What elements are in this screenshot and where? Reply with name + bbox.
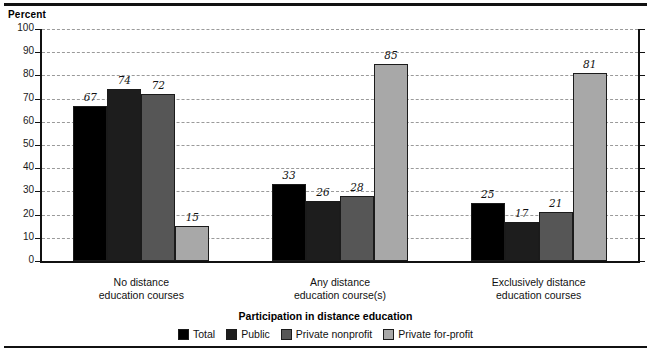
bar: [539, 212, 573, 261]
bar-value-label: 67: [70, 91, 110, 103]
bar-value-label: 28: [337, 181, 377, 193]
y-axis-tick-label: 10: [6, 231, 34, 242]
y-axis-tick-right: [640, 29, 645, 30]
y-axis-tick-label: 90: [6, 45, 34, 56]
y-axis-tick-label: 0: [6, 254, 34, 265]
y-axis-tick-right: [640, 145, 645, 146]
x-axis-tick-label: Exclusively distanceeducation courses: [444, 276, 634, 301]
y-axis-tick: [35, 145, 40, 146]
x-axis-tick-label: No distanceeducation courses: [46, 276, 236, 301]
y-axis-tick: [35, 168, 40, 169]
legend-swatch: [281, 329, 292, 340]
legend-swatch: [383, 329, 394, 340]
y-axis-tick-right: [640, 122, 645, 123]
legend-label: Private nonprofit: [296, 328, 372, 340]
y-axis-tick: [35, 191, 40, 192]
bar: [175, 226, 209, 261]
y-axis-tick: [35, 215, 40, 216]
y-axis-tick-label: 100: [6, 22, 34, 33]
y-axis-title: Percent: [8, 9, 46, 20]
legend-item: Total: [178, 328, 215, 340]
y-axis-tick-right: [640, 99, 645, 100]
y-axis-tick-right: [640, 75, 645, 76]
bar-value-label: 85: [371, 49, 411, 61]
x-axis-tick-label: Any distanceeducation course(s): [245, 276, 435, 301]
bar-value-label: 72: [138, 79, 178, 91]
bar-group: 67747215: [42, 29, 241, 261]
legend-label: Public: [241, 328, 270, 340]
bar: [573, 73, 607, 261]
chart-legend: TotalPublicPrivate nonprofitPrivate for-…: [0, 328, 651, 340]
bar: [340, 196, 374, 261]
bottom-axis-line: [40, 261, 640, 263]
y-axis-tick-label: 20: [6, 208, 34, 219]
x-axis-tick-label-line: Exclusively distance: [444, 276, 634, 289]
bar: [471, 203, 505, 261]
y-axis-tick-label: 50: [6, 138, 34, 149]
x-axis-tick-label-line: No distance: [46, 276, 236, 289]
bar: [272, 184, 306, 261]
y-axis-tick: [35, 52, 40, 53]
bar-group: 33262885: [241, 29, 440, 261]
bar: [306, 201, 340, 261]
bar: [374, 64, 408, 261]
bar: [107, 89, 141, 261]
x-axis-tick-label-line: education courses: [444, 289, 634, 302]
y-axis-tick: [35, 261, 40, 262]
legend-label: Private for-profit: [398, 328, 473, 340]
bar: [141, 94, 175, 261]
bar-value-label: 81: [570, 58, 610, 70]
y-axis-tick: [35, 99, 40, 100]
y-axis-tick: [35, 122, 40, 123]
plot-area: 677472153326288525172181: [40, 29, 640, 263]
y-axis-tick-right: [640, 191, 645, 192]
y-axis-tick-label: 70: [6, 92, 34, 103]
legend-item: Public: [226, 328, 270, 340]
right-axis-line: [638, 29, 640, 263]
bar-group: 25172181: [439, 29, 638, 261]
legend-label: Total: [193, 328, 215, 340]
y-axis-tick-label: 80: [6, 68, 34, 79]
bottom-rule: [4, 346, 647, 348]
legend-swatch: [226, 329, 237, 340]
x-axis-tick-label-line: education course(s): [245, 289, 435, 302]
bar-value-label: 33: [269, 169, 309, 181]
x-axis-tick-label-line: education courses: [46, 289, 236, 302]
y-axis-tick-right: [640, 168, 645, 169]
bars-layer: 677472153326288525172181: [42, 29, 638, 261]
y-axis-tick-label: 40: [6, 161, 34, 172]
y-axis-tick: [35, 29, 40, 30]
y-axis-tick-right: [640, 215, 645, 216]
y-axis-tick-label: 30: [6, 184, 34, 195]
y-axis-tick-right: [640, 52, 645, 53]
bar: [505, 222, 539, 261]
y-axis-tick: [35, 75, 40, 76]
legend-item: Private for-profit: [383, 328, 473, 340]
legend-item: Private nonprofit: [281, 328, 372, 340]
bar: [73, 106, 107, 261]
y-axis-tick-right: [640, 261, 645, 262]
x-axis-title: Participation in distance education: [0, 310, 651, 322]
bar-value-label: 15: [172, 211, 212, 223]
bar-chart-figure: Percent 677472153326288525172181 0102030…: [0, 0, 651, 351]
bar-value-label: 25: [468, 188, 508, 200]
top-rule: [4, 3, 647, 6]
x-axis-tick-label-line: Any distance: [245, 276, 435, 289]
y-axis-tick: [35, 238, 40, 239]
y-axis-tick-right: [640, 238, 645, 239]
y-axis-tick-label: 60: [6, 115, 34, 126]
bar-value-label: 21: [536, 197, 576, 209]
legend-swatch: [178, 329, 189, 340]
